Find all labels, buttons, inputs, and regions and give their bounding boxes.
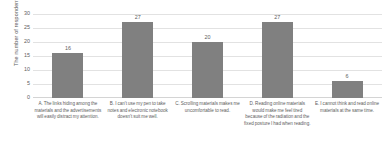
category-label-d: D. Reading online materials would make m…: [242, 101, 312, 128]
bar-a[interactable]: [52, 53, 83, 98]
y-axis-tick-labels: 0 5 10 15 20 25 30: [16, 14, 30, 98]
y-tick-label: 25: [16, 25, 30, 30]
bar-value-label: 20: [173, 35, 243, 40]
y-tick-label: 15: [16, 53, 30, 58]
category-label-b: B. I can't use my pen to take notes and …: [103, 101, 173, 121]
bar-slot-d: 27: [242, 14, 312, 98]
category-label-e: E. I cannot think and read online materi…: [312, 101, 382, 114]
y-tick-label: 20: [16, 39, 30, 44]
y-tick-label: 5: [16, 81, 30, 86]
x-axis-category-labels: A. The links hiding among the materials …: [33, 101, 382, 158]
bar-value-label: 27: [103, 15, 173, 20]
bar-value-label: 27: [242, 15, 312, 20]
category-label-c: C. Scrolling materials makes me uncomfor…: [173, 101, 243, 114]
bar-value-label: 6: [312, 74, 382, 79]
plot-area: 16 27 20 27 6: [33, 14, 382, 98]
bar-b[interactable]: [122, 22, 153, 98]
bar-slot-c: 20: [173, 14, 243, 98]
bar-slot-b: 27: [103, 14, 173, 98]
bar-series: 16 27 20 27 6: [33, 14, 382, 98]
bar-slot-e: 6: [312, 14, 382, 98]
bar-e[interactable]: [332, 81, 363, 98]
bar-c[interactable]: [192, 42, 223, 98]
bar-chart: The number of respondents 0 5 10 15 20 2…: [0, 0, 386, 159]
category-label-a: A. The links hiding among the materials …: [33, 101, 103, 121]
bar-slot-a: 16: [33, 14, 103, 98]
y-tick-label: 10: [16, 67, 30, 72]
bar-value-label: 16: [33, 46, 103, 51]
y-tick-label: 30: [16, 11, 30, 16]
y-tick-label: 0: [16, 95, 30, 100]
bar-d[interactable]: [262, 22, 293, 98]
